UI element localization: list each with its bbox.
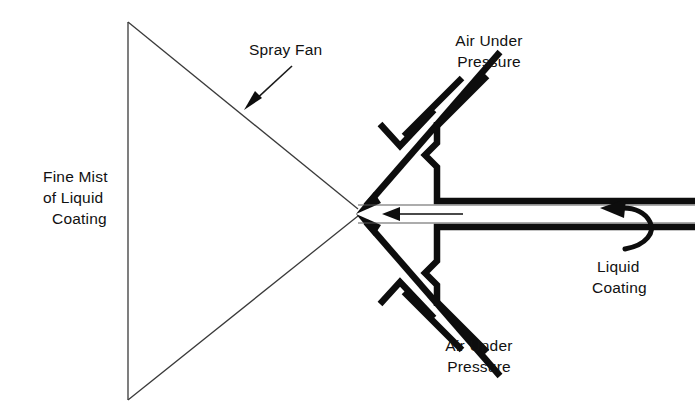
upper-air-channel [356, 52, 500, 214]
label-air-top: Air Under Pressure [455, 32, 522, 70]
diagram-canvas: Spray Fan Fine Mist of Liquid Coating Ai… [0, 0, 695, 418]
air-top-label-line2: Pressure [457, 53, 521, 70]
spray-nozzle-diagram: Spray Fan Fine Mist of Liquid Coating Ai… [0, 0, 695, 418]
liquid-coating-label-line1: Liquid [597, 258, 640, 275]
body-upper-profile [425, 122, 695, 201]
arrow-left-icon [382, 207, 400, 221]
fan-lower-edge [128, 216, 358, 400]
liquid-coating-label-line2: Coating [592, 279, 647, 296]
leader-lines [244, 66, 292, 110]
label-fine-mist: Fine Mist of Liquid Coating [43, 168, 108, 227]
air-bottom-label-line1: Air Under [445, 337, 512, 354]
fan-upper-edge [128, 22, 358, 209]
spray-fan-arrow-icon [244, 91, 262, 110]
air-bottom-label-line2: Pressure [447, 358, 511, 375]
label-spray-fan: Spray Fan [249, 41, 322, 58]
spray-fan-label: Spray Fan [249, 41, 322, 58]
fine-mist-label-line3: Coating [52, 210, 107, 227]
nozzle-body [425, 122, 695, 306]
fine-mist-label-line2: of Liquid [43, 189, 103, 206]
spray-fan-outline [128, 22, 358, 400]
air-top-label-line1: Air Under [455, 32, 522, 49]
body-lower-profile [425, 227, 695, 306]
fine-mist-label-line1: Fine Mist [43, 168, 108, 185]
label-liquid-coating: Liquid Coating [592, 258, 647, 296]
